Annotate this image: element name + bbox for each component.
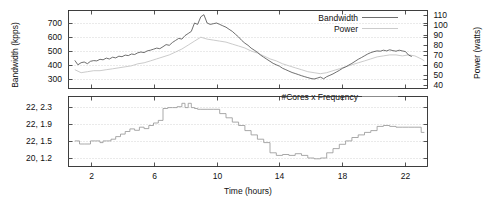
figure-root: Bandwidth (kpps) Power (watts) Time (hou…	[0, 0, 492, 206]
plot-canvas	[0, 0, 492, 206]
series-bandwidth	[75, 15, 412, 79]
series-cores-frequency	[75, 103, 425, 159]
